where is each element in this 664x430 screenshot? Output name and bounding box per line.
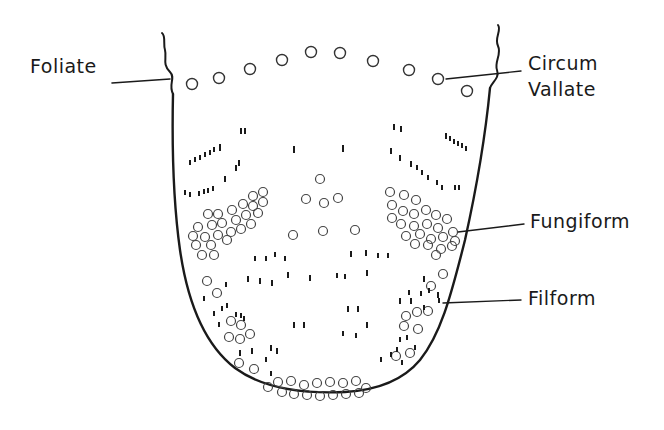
vallate-wavy-edge — [490, 25, 499, 88]
tongue-diagram: Foliate Circum Vallate Fungiform Filform — [0, 0, 664, 430]
foliate-wavy-edge — [162, 33, 173, 94]
fungiform-label: Fungiform — [530, 210, 630, 232]
fungiform-papillae — [189, 175, 460, 401]
foliate-leader-line — [112, 79, 170, 83]
filiform-papillae — [185, 124, 466, 376]
foliate-label: Foliate — [30, 55, 97, 77]
filform-leader-line — [443, 300, 521, 303]
tongue-outline — [173, 88, 490, 392]
filform-label: Filform — [528, 287, 596, 309]
circum-vallate-leader-line — [446, 71, 521, 79]
circumvallate-papillae — [187, 47, 473, 97]
vallate-label: Vallate — [528, 78, 596, 100]
circum-label: Circum — [528, 52, 598, 74]
